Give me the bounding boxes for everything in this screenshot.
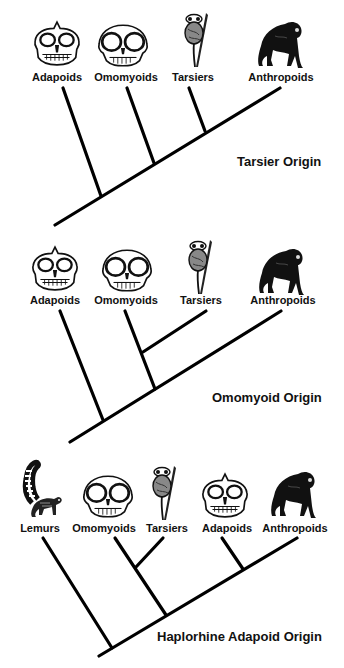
tree-branches [0,0,344,668]
hypothesis-title: Haplorhine Adapoid Origin [157,629,322,644]
